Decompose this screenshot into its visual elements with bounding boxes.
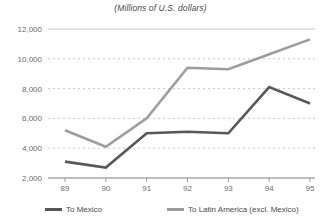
x-axis-tick-label: 89	[53, 184, 77, 193]
chart-legend: To Mexico To Latin America (excl. Mexico…	[0, 203, 321, 219]
legend-swatch-icon	[45, 208, 62, 211]
y-axis-tick-label: 6,000	[0, 114, 42, 123]
y-axis-tick-label: 4,000	[0, 144, 42, 153]
x-axis-tick-label: 95	[298, 184, 321, 193]
y-axis-tick-label: 2,000	[0, 174, 42, 183]
legend-item-to-latin-america[interactable]: To Latin America (excl. Mexico)	[167, 205, 299, 214]
x-axis-tick-label: 94	[257, 184, 281, 193]
legend-label: To Latin America (excl. Mexico)	[188, 205, 299, 214]
series-line	[65, 87, 310, 168]
x-axis-tick-label: 93	[216, 184, 240, 193]
legend-swatch-icon	[167, 208, 184, 211]
y-axis-tick-label: 8,000	[0, 84, 42, 93]
legend-item-to-mexico[interactable]: To Mexico	[45, 205, 102, 214]
x-axis-tick-label: 92	[176, 184, 200, 193]
legend-label: To Mexico	[66, 205, 102, 214]
x-axis-tick-label: 91	[135, 184, 159, 193]
y-axis-tick-label: 12,000	[0, 25, 42, 34]
x-axis-tick-label: 90	[94, 184, 118, 193]
chart-figure: (Millions of U.S. dollars) 2,0004,0006,0…	[0, 0, 321, 224]
y-axis-tick-label: 10,000	[0, 54, 42, 63]
x-axis-ticks	[65, 178, 310, 182]
